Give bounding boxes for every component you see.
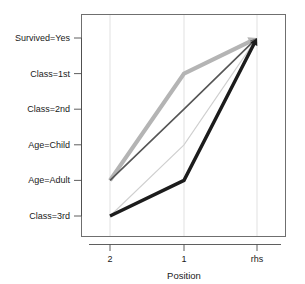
x-tick-label-2: 2: [107, 254, 112, 264]
y-axis: [74, 38, 82, 216]
parallel-coordinates-plot: Survived=Yes Class=1st Class=2nd Age=Chi…: [0, 0, 305, 284]
y-tick-label-class-2nd: Class=2nd: [27, 104, 70, 114]
y-tick-labels: Survived=Yes Class=1st Class=2nd Age=Chi…: [15, 33, 70, 221]
rule-line-4: [110, 41, 255, 216]
x-tick-label-1: 1: [181, 254, 186, 264]
y-tick-label-age-child: Age=Child: [28, 140, 70, 150]
x-axis: [89, 245, 281, 252]
y-tick-label-age-adult: Age=Adult: [28, 175, 70, 185]
x-tick-label-rhs: rhs: [251, 254, 264, 264]
rule-line-3: [110, 41, 255, 216]
y-tick-label-survived-yes: Survived=Yes: [15, 33, 70, 43]
plot-frame: [82, 15, 286, 237]
rule-line-2: [110, 41, 254, 181]
x-tick-labels: 2 1 rhs: [107, 254, 263, 264]
y-tick-label-class-3rd: Class=3rd: [29, 211, 70, 221]
y-tick-label-class-1st: Class=1st: [30, 69, 70, 79]
x-axis-title: Position: [167, 270, 201, 281]
chart-canvas: Survived=Yes Class=1st Class=2nd Age=Chi…: [0, 0, 305, 284]
